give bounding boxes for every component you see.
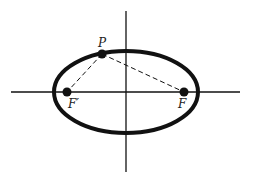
focus-fprime-dot [63,88,72,97]
label-fprime: F′ [67,97,79,111]
ellipse-foci-diagram: P F′ F [0,0,253,183]
point-p-dot [98,50,107,59]
label-p: P [97,36,107,50]
label-f: F [177,97,187,111]
focus-f-dot [180,88,189,97]
